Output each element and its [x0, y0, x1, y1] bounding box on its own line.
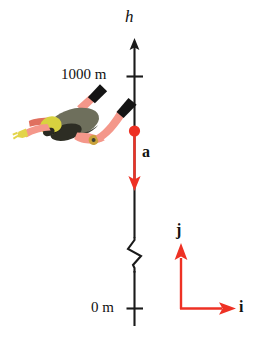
- basis-vector-i-label: i: [239, 299, 243, 315]
- basis-vectors-group: [175, 243, 236, 315]
- basis-vector-j-arrowhead: [175, 243, 188, 260]
- acceleration-vector-group: [128, 125, 140, 191]
- height-axis-label: h: [125, 8, 134, 25]
- basis-vector-j-label: j: [176, 222, 181, 238]
- axis-break-zigzag: [128, 238, 141, 272]
- acceleration-vector-label: a: [142, 144, 150, 160]
- axis-tick-label-1000: 1000 m: [61, 67, 106, 82]
- axis-tick-label-0: 0 m: [91, 300, 114, 315]
- figure-root: h 1000 m 0 m a j i: [0, 0, 265, 340]
- skydiver-figure: [7, 79, 142, 157]
- figure-canvas: [0, 0, 265, 340]
